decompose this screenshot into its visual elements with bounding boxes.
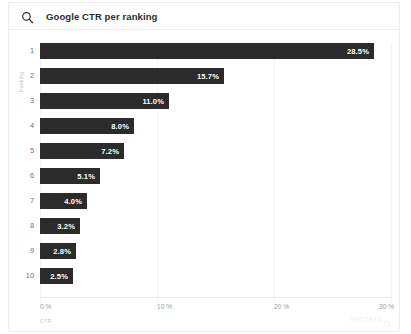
- bar-row: 1 28.5%: [40, 43, 392, 59]
- x-tick-label: 20 %: [274, 303, 289, 310]
- y-tick-label: 10: [19, 268, 34, 284]
- bar-row: 9 2.8%: [40, 243, 392, 259]
- bar[interactable]: 8.0%: [40, 118, 134, 134]
- x-tick-label: 0 %: [40, 303, 51, 310]
- y-tick-label: 8: [19, 218, 34, 234]
- y-tick-label: 9: [19, 243, 34, 259]
- bar-value-label: 11.0%: [142, 97, 164, 106]
- bar-value-label: 4.0%: [64, 197, 82, 206]
- bar[interactable]: 2.5%: [40, 268, 73, 284]
- watermark-label: SISTRIX: [351, 316, 382, 323]
- chart-screenshot: Google CTR per ranking Ranking 1 28.5%: [0, 0, 411, 334]
- bar[interactable]: 2.8%: [40, 243, 76, 259]
- bar[interactable]: 28.5%: [40, 43, 374, 59]
- y-tick-label: 5: [19, 143, 34, 159]
- bar-value-label: 7.2%: [101, 147, 119, 156]
- plot-area: 1 28.5% 2 15.7% 3 11.0%: [40, 43, 392, 296]
- bar-row: 6 5.1%: [40, 168, 392, 184]
- chart-area: Ranking 1 28.5% 2 15: [9, 31, 401, 332]
- bar-value-label: 3.2%: [57, 222, 75, 231]
- bar-value-label: 8.0%: [111, 122, 129, 131]
- y-tick-label: 2: [19, 68, 34, 84]
- x-tick-label: 30 %: [379, 303, 394, 310]
- x-tick-label: 10 %: [157, 303, 172, 310]
- x-axis-title: CTR: [40, 318, 52, 324]
- bar-row: 4 8.0%: [40, 118, 392, 134]
- card-header: Google CTR per ranking: [9, 3, 399, 30]
- y-tick-label: 1: [19, 43, 34, 59]
- bar[interactable]: 3.2%: [40, 218, 80, 234]
- bar[interactable]: 11.0%: [40, 93, 169, 109]
- sistrix-watermark: SISTRIX: [351, 315, 392, 324]
- y-tick-label: 7: [19, 193, 34, 209]
- bar-row: 3 11.0%: [40, 93, 392, 109]
- bar-value-label: 15.7%: [197, 72, 219, 81]
- bar-row: 10 2.5%: [40, 268, 392, 284]
- bar-row: 8 3.2%: [40, 218, 392, 234]
- bar-series: 1 28.5% 2 15.7% 3 11.0%: [40, 43, 392, 296]
- bar-row: 2 15.7%: [40, 68, 392, 84]
- y-tick-label: 4: [19, 118, 34, 134]
- x-axis-line: [40, 297, 392, 298]
- bar-value-label: 2.5%: [50, 272, 68, 281]
- bar[interactable]: 5.1%: [40, 168, 100, 184]
- bar[interactable]: 7.2%: [40, 143, 124, 159]
- bar[interactable]: 15.7%: [40, 68, 224, 84]
- page-title: Google CTR per ranking: [46, 11, 157, 22]
- bar[interactable]: 4.0%: [40, 193, 87, 209]
- bar-value-label: 5.1%: [77, 172, 95, 181]
- bar-row: 7 4.0%: [40, 193, 392, 209]
- bar-row: 5 7.2%: [40, 143, 392, 159]
- y-tick-label: 3: [19, 93, 34, 109]
- bar-value-label: 28.5%: [347, 47, 369, 56]
- bar-value-label: 2.8%: [53, 247, 71, 256]
- chart-card: Google CTR per ranking Ranking 1 28.5%: [8, 2, 400, 332]
- magnifier-icon: [383, 315, 392, 324]
- search-icon: [21, 10, 34, 23]
- y-tick-label: 6: [19, 168, 34, 184]
